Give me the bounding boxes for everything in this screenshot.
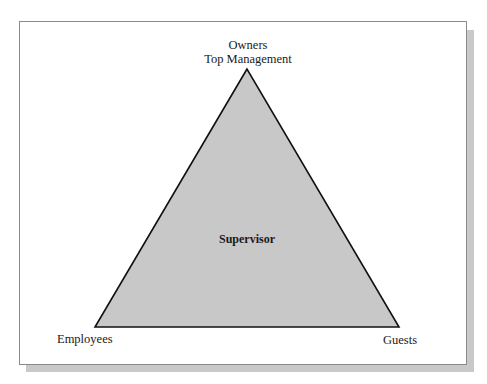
employees-label: Employees bbox=[57, 332, 113, 346]
guests-label: Guests bbox=[383, 333, 417, 347]
supervisor-triangle bbox=[95, 69, 399, 327]
apex-label: Owners Top Management bbox=[190, 38, 306, 66]
top-management-label: Top Management bbox=[190, 52, 306, 66]
owners-label: Owners bbox=[190, 38, 306, 52]
supervisor-label: Supervisor bbox=[210, 232, 284, 246]
